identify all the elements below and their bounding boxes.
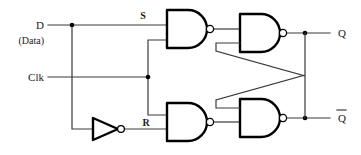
nand-q-bubble-icon [279,29,286,36]
wire-group-inputs [48,23,167,129]
wire-clk-to-nand-s [148,40,167,77]
label-s-signal: S [140,10,146,21]
nand-gate-r [167,103,214,141]
nand-r-bubble-icon [206,118,213,125]
label-clk-input: Clk [28,71,44,83]
nand-gate-s [167,10,214,48]
label-qbar-output: Q [338,112,346,124]
inverter-bubble-icon [118,126,125,133]
circuit-diagram-canvas: D (Data) Clk S R Q Q [0,0,361,155]
nand-gate-q [240,14,287,52]
nand-qbar-bubble-icon [279,114,286,121]
nand-gate-qbar [240,99,287,137]
label-d-input-sub: (Data) [18,35,44,47]
junction-clk [146,75,151,80]
nand-r-body [167,103,207,141]
wire-clk-to-nand-r [148,77,167,115]
nand-qbar-body [240,99,280,137]
junction-d [70,23,75,28]
circuit-schematic: D (Data) Clk S R Q Q [0,0,361,155]
nand-s-bubble-icon [206,25,213,32]
nand-s-body [167,10,207,48]
inverter-gate-d [93,118,124,140]
label-r-signal: R [142,117,150,128]
inverter-triangle-icon [93,118,118,140]
label-q-output: Q [338,27,346,39]
label-d-input: D [36,19,44,31]
label-qbar-output-group: Q [337,110,346,124]
nand-q-body [240,14,280,52]
